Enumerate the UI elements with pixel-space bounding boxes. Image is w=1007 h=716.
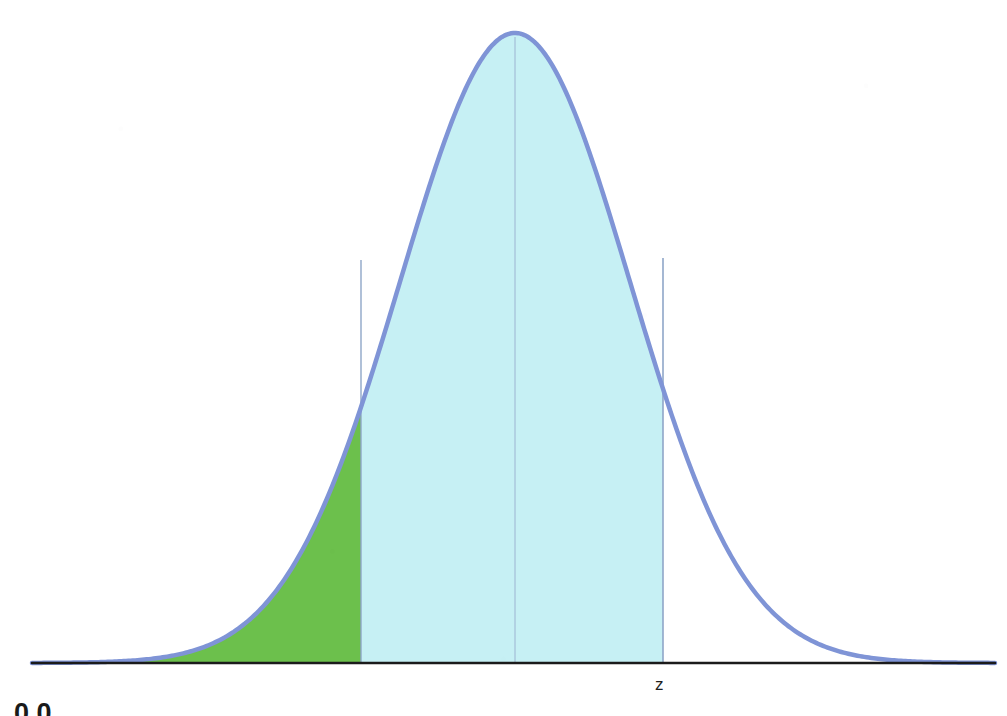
normal-distribution-chart [0,0,1007,716]
figure-canvas: z 0.0 [0,0,1007,716]
left-tail-shaded-region [72,0,361,663]
center-band-shaded-region [361,0,663,663]
page-number-fragment: 0.0 [14,700,52,716]
z-axis-label: z [655,676,664,693]
